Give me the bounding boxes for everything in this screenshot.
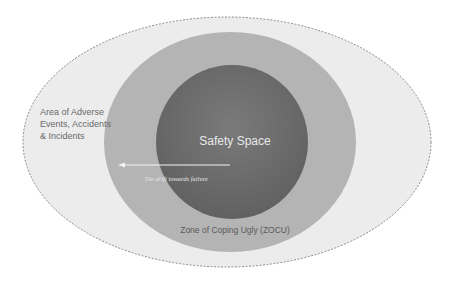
outer-zone-label-line: & Incidents: [40, 131, 85, 141]
middle-zone-label: Zone of Coping Ugly (ZOCU): [180, 225, 290, 235]
drift-arrow-label: The drift towards failure: [144, 175, 208, 182]
safety-zones-diagram: Area of Adverse Events, Accidents & Inci…: [0, 0, 451, 282]
outer-zone-label-line: Area of Adverse: [40, 107, 104, 117]
outer-zone-label-line: Events, Accidents: [40, 119, 112, 129]
safety-space-label: Safety Space: [199, 134, 271, 148]
